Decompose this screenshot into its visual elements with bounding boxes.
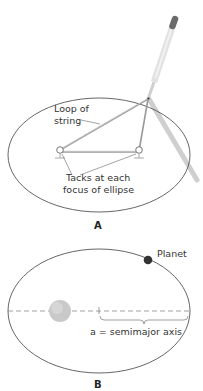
loop-of-string-label: Loop of bbox=[54, 103, 90, 114]
pencil-icon bbox=[147, 19, 175, 100]
semimajor-bracket bbox=[100, 316, 188, 324]
tacks-label: Tacks at each bbox=[65, 172, 130, 183]
planet-icon bbox=[144, 256, 153, 265]
loop-leader bbox=[81, 120, 100, 124]
semimajor-axis-label: a = semimajor axis bbox=[90, 326, 182, 337]
pencil-shadow bbox=[149, 99, 197, 180]
panel-a-label: A bbox=[94, 220, 102, 231]
panel-a: Loop of string Tacks at each focus of el… bbox=[8, 19, 197, 231]
ellipse-diagram: Loop of string Tacks at each focus of el… bbox=[0, 0, 203, 391]
tacks-label-2: focus of ellipse bbox=[63, 184, 134, 195]
panel-b-label: B bbox=[94, 379, 102, 390]
panel-b: Planet a = semimajor axis B bbox=[8, 248, 190, 390]
loop-of-string-label-2: string bbox=[54, 115, 81, 126]
planet-label: Planet bbox=[157, 248, 187, 259]
